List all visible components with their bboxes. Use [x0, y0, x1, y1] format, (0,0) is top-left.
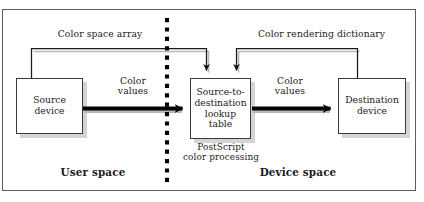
label-device-space: Device space [238, 167, 358, 179]
node-source-device: Source device [16, 78, 83, 134]
label-color-values-left: Color values [99, 76, 167, 97]
label-user-space: User space [38, 167, 148, 179]
node-source-to-destination-lookup-table: Source-to- destination lookup table [190, 78, 251, 139]
label-color-rendering-dictionary: Color rendering dictionary [239, 29, 404, 39]
node-source-device-label: Source device [33, 95, 66, 117]
node-lookup-table-label: Source-to- destination lookup table [194, 87, 246, 130]
node-destination-device-label: Destination device [345, 95, 399, 117]
label-color-space-array: Color space array [30, 29, 170, 39]
color-space-array-path [32, 49, 209, 79]
label-postscript-color-processing: PostScript color processing [168, 143, 274, 163]
color-rendering-dictionary-path [237, 49, 360, 79]
label-color-values-right: Color values [256, 76, 324, 97]
node-destination-device: Destination device [338, 78, 406, 134]
figure-canvas: Source device Source-to- destination loo… [0, 0, 424, 202]
